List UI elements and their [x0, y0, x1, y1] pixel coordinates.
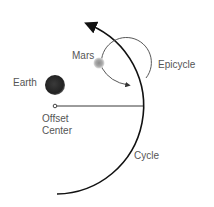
- offset-center-label-line1: Offset: [42, 113, 69, 125]
- earth-label: Earth: [13, 77, 37, 89]
- mars-label: Mars: [72, 50, 94, 62]
- mars-icon: [94, 58, 105, 69]
- epicycle-label: Epicycle: [158, 59, 195, 71]
- earth-icon: [45, 75, 65, 95]
- offset-center-label-line2: Center: [42, 125, 72, 137]
- cycle-arc: [57, 25, 144, 194]
- epicycle-arc: [101, 37, 151, 85]
- ptolemaic-diagram: [0, 0, 214, 207]
- cycle-label: Cycle: [134, 150, 159, 162]
- offset-center-point: [53, 104, 57, 108]
